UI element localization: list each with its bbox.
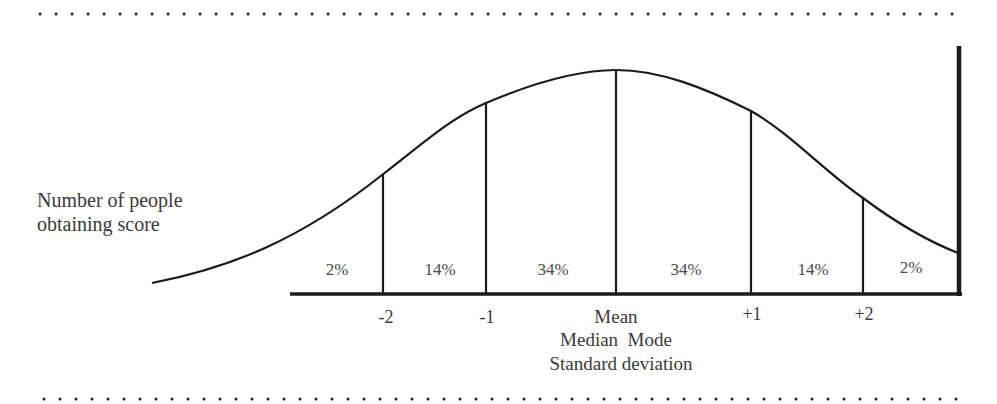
segment-label: 2% — [326, 260, 349, 279]
segment-label: 14% — [797, 260, 828, 279]
tick-label-plus-1: +1 — [742, 304, 761, 324]
segment-label: 14% — [424, 260, 455, 279]
segment-label: 34% — [537, 260, 568, 279]
tick-label-plus-2: +2 — [854, 304, 873, 324]
caption-median-mode: Median Mode — [560, 329, 672, 350]
y-axis-label-line1: Number of people — [37, 189, 183, 212]
caption-standard-deviation: Standard deviation — [550, 353, 693, 374]
normal-distribution-figure: Number of people obtaining score 2% 14% … — [0, 0, 997, 404]
tick-label-minus-2: -2 — [379, 307, 394, 327]
bell-curve — [152, 70, 958, 283]
tick-label-minus-1: -1 — [480, 307, 495, 327]
y-axis-label-line2: obtaining score — [37, 213, 160, 236]
segment-label: 2% — [900, 258, 923, 277]
tick-label-mean: Mean — [594, 306, 638, 327]
segment-label: 34% — [670, 260, 701, 279]
